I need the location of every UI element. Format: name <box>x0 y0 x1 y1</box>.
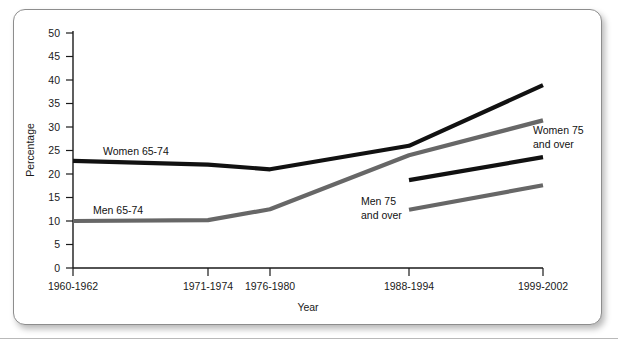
bottom-divider <box>0 338 618 339</box>
figure-root: 0 5 10 15 20 25 30 35 40 45 50 1960-1962… <box>0 0 618 351</box>
y-axis-title: Percentage <box>24 123 36 177</box>
y-tick-label-25: 25 <box>48 144 60 156</box>
x-tick-label-1988-1994: 1988-1994 <box>384 280 434 292</box>
series-label-men-75-and-over-line1: Men 75 <box>361 195 396 207</box>
x-tick-label-1960-1962: 1960-1962 <box>48 280 98 292</box>
series-label-women-75-and-over-line1: Women 75 <box>533 124 584 136</box>
y-tick-label-0: 0 <box>54 262 60 274</box>
series-label-men-75-and-over-line2: and over <box>361 209 402 221</box>
series-line-women-75-and-over <box>409 157 543 180</box>
y-tick-label-10: 10 <box>48 215 60 227</box>
x-tick-marks <box>73 268 543 276</box>
y-tick-label-15: 15 <box>48 191 60 203</box>
x-tick-label-1976-1980: 1976-1980 <box>245 280 295 292</box>
series-label-women-65-74: Women 65-74 <box>103 145 169 157</box>
y-tick-label-20: 20 <box>48 168 60 180</box>
y-tick-label-40: 40 <box>48 74 60 86</box>
x-tick-label-1999-2002: 1999-2002 <box>518 280 568 292</box>
series-label-men-65-74: Men 65-74 <box>93 204 143 216</box>
x-tick-label-1971-1974: 1971-1974 <box>183 280 233 292</box>
y-tick-marks <box>66 33 73 268</box>
x-axis-title: Year <box>297 301 319 313</box>
y-tick-label-45: 45 <box>48 50 60 62</box>
line-chart: 0 5 10 15 20 25 30 35 40 45 50 1960-1962… <box>0 0 618 351</box>
y-tick-label-50: 50 <box>48 27 60 39</box>
series-label-women-75-and-over-line2: and over <box>533 138 574 150</box>
y-tick-label-35: 35 <box>48 97 60 109</box>
y-tick-label-5: 5 <box>54 238 60 250</box>
series-line-men-75-and-over <box>409 185 543 209</box>
y-tick-label-30: 30 <box>48 121 60 133</box>
